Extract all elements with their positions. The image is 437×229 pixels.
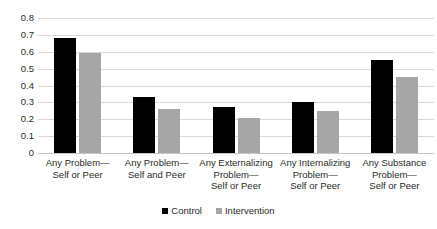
x-axis-category-label: Any Problem— Self and Peer	[117, 157, 196, 192]
y-axis-tick-label: 0.2	[21, 115, 34, 125]
bar-intervention	[79, 53, 101, 153]
legend-swatch-icon	[162, 208, 168, 214]
bar-chart: 0.80.70.60.50.40.30.20.10 Any Problem— S…	[0, 0, 437, 229]
legend-label: Control	[171, 206, 202, 216]
bar-group	[196, 18, 275, 153]
y-axis-tick-label: 0	[29, 148, 34, 158]
x-axis-category-label: Any Problem— Self or Peer	[38, 157, 117, 192]
bar-intervention	[396, 77, 418, 153]
y-axis-tick-label: 0.8	[21, 13, 34, 23]
bar-groups	[38, 18, 434, 153]
bar-group	[117, 18, 196, 153]
x-axis-labels: Any Problem— Self or PeerAny Problem— Se…	[38, 157, 434, 192]
axis-baseline	[38, 153, 434, 154]
legend-label: Intervention	[225, 206, 275, 216]
y-axis-tick-label: 0.4	[21, 81, 34, 91]
chart-legend: ControlIntervention	[0, 206, 437, 216]
y-axis-tick-label: 0.3	[21, 98, 34, 108]
x-axis-category-label: Any Substance Problem— Self or Peer	[355, 157, 434, 192]
y-axis-tick-label: 0.7	[21, 30, 34, 40]
bar-intervention	[158, 109, 180, 153]
legend-swatch-icon	[216, 208, 222, 214]
legend-item-control[interactable]: Control	[162, 206, 202, 216]
y-axis-labels: 0.80.70.60.50.40.30.20.10	[0, 18, 34, 153]
bar-control	[213, 107, 235, 153]
bar-intervention	[317, 111, 339, 153]
bar-control	[133, 97, 155, 153]
y-axis-tick-label: 0.6	[21, 47, 34, 57]
x-axis-category-label: Any Externalizing Problem— Self or Peer	[196, 157, 275, 192]
bar-control	[371, 60, 393, 153]
bar-group	[276, 18, 355, 153]
y-axis-tick-label: 0.5	[21, 64, 34, 74]
bar-control	[292, 102, 314, 153]
y-axis-tick-label: 0.1	[21, 131, 34, 141]
bar-group	[38, 18, 117, 153]
legend-item-intervention[interactable]: Intervention	[216, 206, 275, 216]
bar-control	[54, 38, 76, 153]
bar-intervention	[238, 118, 260, 153]
x-axis-category-label: Any Internalizing Problem— Self or Peer	[276, 157, 355, 192]
bar-group	[355, 18, 434, 153]
